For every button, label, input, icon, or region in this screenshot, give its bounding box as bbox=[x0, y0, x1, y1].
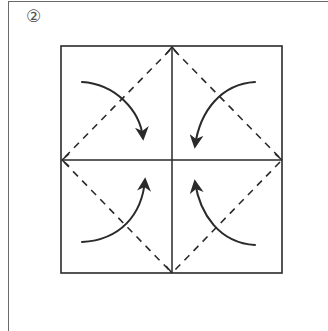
valley-fold-bottom-left bbox=[64, 162, 170, 271]
fold-arrow-bottom-left-icon bbox=[82, 180, 145, 242]
valley-fold-top-right bbox=[174, 50, 280, 158]
fold-arrow-bottom-right-icon bbox=[195, 182, 255, 245]
valley-fold-bottom-right bbox=[174, 162, 280, 271]
fold-arrow-top-left-icon bbox=[82, 82, 143, 138]
valley-fold-top-left bbox=[64, 50, 170, 158]
fold-arrow-top-right-icon bbox=[195, 82, 255, 146]
